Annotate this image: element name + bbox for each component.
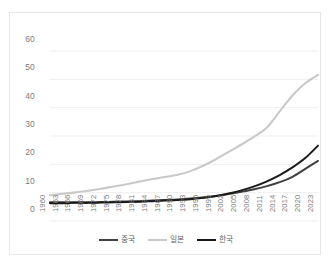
y-axis-tick-label: 0 [11,204,35,214]
chart-legend: 중국일본한국 [0,236,331,244]
x-axis-tick-label: 1969 [76,195,85,212]
legend-swatch-icon [197,239,216,241]
y-axis-tick-label: 40 [11,91,35,101]
x-axis-tick-label: 2008 [242,195,251,212]
series-lines [50,75,318,203]
chart-container: 0102030405060 19601963196619691972197519… [9,12,321,255]
legend-item-1[interactable]: 일본 [148,236,184,244]
x-axis-tick-label: 1987 [153,195,162,212]
x-axis-tick-label: 1960 [38,195,47,212]
x-axis-tick-label: 1999 [204,195,213,212]
x-axis-tick-label: 2020 [293,195,302,212]
legend-label: 한국 [219,236,233,244]
x-axis-tick-label: 2005 [229,195,238,212]
x-axis-tick-label: 1978 [114,195,123,212]
legend-swatch-icon [148,239,167,241]
y-axis-tick-label: 60 [11,34,35,44]
legend-item-2[interactable]: 한국 [197,236,233,244]
x-axis-tick-label: 1972 [89,195,98,212]
legend-item-0[interactable]: 중국 [99,236,135,244]
x-axis-tick-label: 1966 [63,195,72,212]
x-axis-tick-label: 2011 [255,195,264,212]
x-axis-tick-label: 1975 [102,195,111,212]
y-axis-tick-label: 50 [11,62,35,72]
y-axis-tick-label: 30 [11,119,35,129]
x-axis-tick-label: 1963 [51,195,60,212]
x-axis-tick-label: 1996 [191,195,200,212]
x-axis-tick-label: 2023 [306,195,315,212]
x-axis-tick-label: 2017 [280,195,289,212]
legend-label: 중국 [121,236,135,244]
x-axis-tick-label: 1984 [140,195,149,212]
legend-label: 일본 [170,236,184,244]
x-axis-tick-label: 1993 [178,195,187,212]
y-axis-tick-label: 10 [11,176,35,186]
x-axis-tick-label: 1981 [127,195,136,212]
x-axis-tick-label: 1990 [165,195,174,212]
y-axis-tick-label: 20 [11,147,35,157]
x-axis-tick-label: 2002 [216,195,225,212]
chart-plot-area [10,13,331,267]
legend-swatch-icon [99,239,118,241]
x-axis-tick-label: 2014 [268,195,277,212]
